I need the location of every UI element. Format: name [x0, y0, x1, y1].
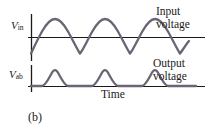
input-voltage-subscript: in — [18, 23, 24, 32]
input-annotation-line-2: voltage — [156, 18, 190, 31]
input-voltage-annotation: Input voltage — [156, 5, 190, 31]
input-annotation-line-1: Input — [156, 5, 190, 18]
output-voltage-symbol: V — [9, 68, 16, 80]
input-voltage-axis-label: Vin — [11, 20, 24, 32]
output-annotation-line-1: Output — [153, 57, 187, 70]
output-voltage-subscript: ab — [16, 72, 23, 81]
output-annotation-line-2: voltage — [153, 70, 187, 83]
figure-caption: (b) — [28, 111, 42, 124]
figure-half-wave-rectifier-waveforms: Vin Vab Input voltage Output voltage Tim… — [0, 0, 210, 136]
time-axis-label: Time — [101, 88, 125, 100]
output-voltage-annotation: Output voltage — [153, 57, 187, 83]
input-voltage-symbol: V — [11, 19, 18, 31]
output-voltage-axis-label: Vab — [9, 69, 23, 81]
